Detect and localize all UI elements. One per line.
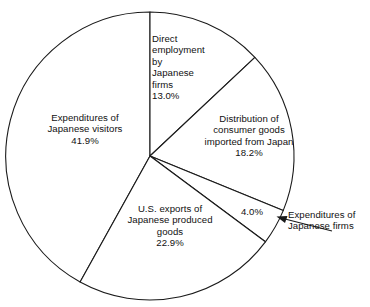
pie-label-direct-employment: Direct employment by Japanese firms 13.0…	[152, 33, 210, 101]
pie-label-expenditures-japanese-firms: Expenditures of Japanese firms	[288, 209, 370, 232]
pie-label-us-exports: U.S. exports of Japanese produced goods …	[112, 203, 228, 249]
pie-label-expenditures-japanese-firms-value: 4.0%	[236, 206, 268, 217]
pie-label-expenditures-japanese-visitors: Expenditures of Japanese visitors 41.9%	[24, 112, 146, 146]
pie-label-distribution-consumer-goods: Distribution of consumer goods imported …	[188, 113, 310, 159]
pie-chart-figure: Expenditures of Japanese visitors 41.9% …	[0, 0, 370, 307]
